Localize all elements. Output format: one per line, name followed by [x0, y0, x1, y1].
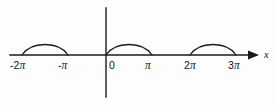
tick-label-pi: π — [145, 60, 151, 72]
sine-arch-0-to-pi — [106, 45, 152, 56]
pi-icon: π — [145, 59, 151, 71]
plot-canvas — [0, 0, 275, 106]
x-axis-arrowhead — [248, 51, 259, 60]
tick-label-2pi: 2π — [184, 60, 196, 72]
tick-label-origin: 0 — [109, 60, 115, 71]
pi-icon: π — [190, 59, 196, 71]
pi-icon: π — [20, 59, 26, 71]
sine-arch-minus-2pi-to-minus-pi — [22, 45, 68, 56]
math-graph-figure: -2π -π 0 π 2π 3π x — [0, 0, 275, 106]
tick-label-3pi: 3π — [228, 60, 240, 72]
tick-label-minus-pi: -π — [58, 60, 67, 72]
sine-arch-2pi-to-3pi — [190, 45, 236, 56]
x-axis-label: x — [264, 50, 269, 61]
tick-label-minus-2pi-prefix: -2 — [10, 59, 20, 71]
pi-icon: π — [234, 59, 240, 71]
tick-label-minus-2pi: -2π — [10, 60, 25, 72]
pi-icon: π — [62, 59, 68, 71]
